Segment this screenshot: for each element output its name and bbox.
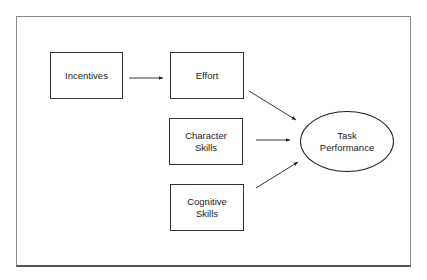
edge-effort-task [249,91,296,120]
node-task-label-1: Task [320,130,374,142]
node-effort-label: Effort [196,70,219,82]
node-cognitive-label-1: Cognitive [187,196,227,208]
node-character-label-1: Character [185,130,227,142]
node-task-performance: Task Performance [300,111,394,172]
node-cognitive-skills: Cognitive Skills [170,184,244,231]
edge-cognitive-task [256,162,298,188]
node-effort: Effort [170,52,244,99]
node-character-skills: Character Skills [169,118,243,165]
node-cognitive-label-2: Skills [187,208,227,220]
node-character-label-2: Skills [185,142,227,154]
node-task-label-2: Performance [320,142,374,154]
node-incentives: Incentives [50,52,123,99]
node-incentives-label: Incentives [65,70,108,82]
